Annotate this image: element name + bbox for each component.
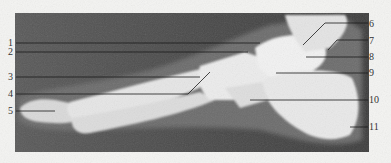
label-5: 5 [8, 106, 13, 116]
label-3: 3 [8, 72, 13, 82]
label-11: 11 [369, 122, 379, 132]
label-7: 7 [369, 36, 374, 46]
label-2: 2 [8, 47, 13, 57]
foot-xray-figure [0, 0, 391, 163]
label-8: 8 [369, 52, 374, 62]
label-6: 6 [369, 19, 374, 29]
label-9: 9 [369, 68, 374, 78]
label-4: 4 [8, 89, 13, 99]
label-10: 10 [369, 95, 379, 105]
